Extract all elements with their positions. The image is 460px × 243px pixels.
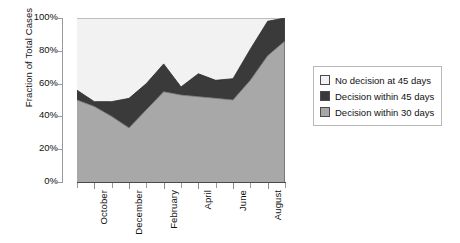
legend-item: Decision within 30 days [320, 104, 434, 120]
x-tick-label: April [202, 190, 213, 210]
x-tick-mark [216, 183, 217, 188]
x-tick-mark [285, 183, 286, 188]
x-tick-mark [129, 183, 130, 189]
x-tick-mark [164, 183, 165, 189]
y-tick-label: 20% [18, 143, 58, 153]
legend-label: No decision at 45 days [335, 75, 431, 86]
chart-legend: No decision at 45 days Decision within 4… [313, 66, 442, 126]
x-tick-label: June [237, 190, 248, 211]
legend-swatch-decision-45 [320, 91, 330, 101]
y-tick-mark [56, 116, 63, 117]
y-tick-label: 100% [18, 12, 58, 22]
stacked-area-chart: Fraction of Total Cases 0%20%40%60%80%10… [0, 0, 460, 243]
x-tick-label: December [133, 190, 144, 235]
x-tick-mark [198, 183, 199, 189]
x-tick-mark [233, 183, 234, 189]
x-tick-mark [250, 183, 251, 188]
legend-item: Decision within 45 days [320, 88, 434, 104]
x-tick-mark [181, 183, 182, 188]
x-tick-label: August [272, 190, 283, 220]
area-series-group [77, 18, 285, 182]
y-tick-label: 40% [18, 110, 58, 120]
y-tick-mark [56, 149, 63, 150]
y-tick-label: 0% [18, 176, 58, 186]
x-tick-mark [268, 183, 269, 189]
x-tick-mark [146, 183, 147, 188]
y-axis-spine [62, 18, 63, 182]
x-tick-mark [77, 183, 78, 188]
x-tick-mark [112, 183, 113, 188]
x-tick-label: October [98, 190, 109, 225]
y-tick-mark [56, 18, 63, 19]
legend-item: No decision at 45 days [320, 72, 434, 88]
x-tick-mark [94, 183, 95, 189]
legend-swatch-no-decision-45 [320, 75, 330, 85]
y-tick-mark [56, 51, 63, 52]
legend-label: Decision within 45 days [335, 91, 434, 102]
y-tick-mark [56, 182, 63, 183]
y-tick-mark [56, 84, 63, 85]
legend-label: Decision within 30 days [335, 107, 434, 118]
y-axis-tick-labels: 0%20%40%60%80%100% [18, 0, 58, 243]
y-tick-label: 80% [18, 45, 58, 55]
x-tick-label: February [168, 190, 179, 229]
plot-area [77, 18, 285, 182]
legend-swatch-decision-30 [320, 107, 330, 117]
y-tick-label: 60% [18, 78, 58, 88]
